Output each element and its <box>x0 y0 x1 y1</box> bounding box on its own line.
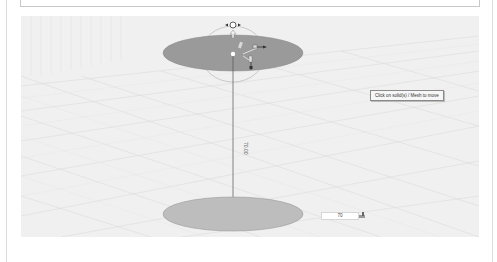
ruler-icon[interactable] <box>358 211 366 219</box>
page-border-left <box>6 0 7 262</box>
dimension-label: 70.00 <box>243 142 249 155</box>
distance-value-input[interactable]: 70 <box>321 212 359 220</box>
center-point-icon[interactable] <box>231 52 235 56</box>
page-border-right <box>492 0 493 262</box>
scene-canvas[interactable] <box>21 16 479 237</box>
3d-viewport[interactable]: 70.00 Click on solid(s) / Mesh to move 7… <box>21 16 479 237</box>
move-hint-tooltip: Click on solid(s) / Mesh to move <box>370 90 444 101</box>
top-panel <box>20 0 480 7</box>
bottom-disc[interactable] <box>163 197 303 231</box>
